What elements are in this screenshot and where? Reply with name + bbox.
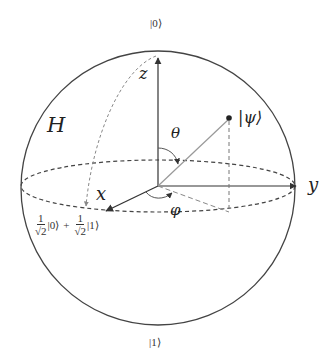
coefficient-2-numerator: 1 [76, 213, 84, 225]
projection-horizontal [158, 186, 229, 212]
coefficient-1: 1 √2 [35, 213, 47, 237]
south-pole-label: |1⟩ [149, 337, 161, 348]
state-vector [158, 119, 229, 186]
x-axis-label: x [96, 185, 106, 203]
north-pole-label: |0⟩ [150, 18, 162, 29]
ket-0: |0⟩ [48, 220, 60, 231]
hadamard-label: H [47, 115, 65, 136]
theta-angle-arc [158, 148, 178, 164]
theta-label: θ [171, 126, 180, 141]
phi-angle-arc [146, 192, 172, 198]
coefficient-2: 1 √2 [74, 213, 86, 237]
x-axis [106, 186, 158, 211]
z-axis-label: z [139, 66, 147, 82]
coefficient-1-numerator: 1 [37, 213, 45, 225]
plus-sign: + [63, 220, 69, 231]
ket-1: |1⟩ [87, 220, 99, 231]
bloch-sphere-diagram [0, 0, 336, 360]
phi-label: φ [170, 203, 181, 218]
state-label: |ψ⟩ [238, 110, 262, 126]
coefficient-2-denominator: √2 [74, 225, 86, 237]
y-axis-label: y [308, 176, 318, 194]
superposition-equation: 1 √2 |0⟩ + 1 √2 |1⟩ [34, 213, 99, 237]
coefficient-1-denominator: √2 [35, 225, 47, 237]
state-point [226, 115, 232, 121]
